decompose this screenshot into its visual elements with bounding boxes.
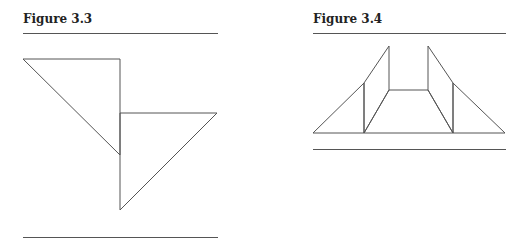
figures-canvas [0,0,528,241]
figure-3-3-lower-triangle [120,113,217,210]
figure-3-3-diagram [23,59,217,210]
figure-3-3-upper-triangle [23,59,120,155]
figure-3-4-center-trapezoid [364,90,453,133]
figure-3-4-right-panel [428,46,453,133]
figure-3-4-left-triangle [313,83,364,133]
figure-3-4-left-panel [364,46,389,133]
figure-3-4-diagram [313,46,505,133]
figure-3-4-right-triangle [453,83,505,133]
